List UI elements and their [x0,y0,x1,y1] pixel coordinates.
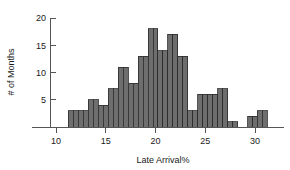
histogram-bar [257,111,262,127]
histogram-bar [248,116,253,127]
x-tick-label: 25 [200,136,210,146]
histogram-bar [213,94,218,127]
x-tick-label: 20 [150,136,160,146]
histogram-bar [158,51,163,127]
histogram-bar [153,29,158,127]
histogram-bar [113,89,118,127]
histogram-bar [198,94,203,127]
histogram-bar [88,100,93,127]
histogram-bar [203,94,208,127]
histogram-bar [73,111,78,127]
y-tick-label: 15 [36,41,46,51]
histogram-bar [228,122,233,127]
histogram-figure: 5101520 1015202530 Late Arrival% # of Mo… [0,0,290,170]
histogram-bar [178,56,183,127]
histogram-bar [183,56,188,127]
histogram-bar [233,122,238,127]
histogram-bar [138,56,143,127]
histogram-bar [68,111,73,127]
y-tick-label: 10 [36,68,46,78]
x-tick-label: 30 [250,136,260,146]
histogram-bar [148,29,153,127]
histogram-bar [128,83,133,127]
histogram-bar [173,34,178,127]
y-tick-label: 5 [41,95,46,105]
histogram-bar [262,111,267,127]
histogram-bar [98,105,103,127]
histogram-bar [253,116,258,127]
x-tick-label: 15 [101,136,111,146]
y-tick-group: 5101520 [36,13,56,105]
histogram-bar [188,111,193,127]
histogram-bar [193,111,198,127]
histogram-bar [118,67,123,127]
histogram-bar [163,51,168,127]
x-tick-group: 1015202530 [51,128,260,147]
histogram-bar [78,111,83,127]
x-axis-title: Late Arrival% [136,155,189,165]
histogram-bar [123,67,128,127]
histogram-bar [108,89,113,127]
histogram-bar [133,83,138,127]
y-axis-title: # of Months [6,48,16,96]
y-tick-label: 20 [36,13,46,23]
histogram-bar [83,111,88,127]
histogram-bar [223,89,228,127]
histogram-bar [103,105,108,127]
histogram-bar [168,34,173,127]
histogram-bar [218,89,223,127]
x-tick-label: 10 [51,136,61,146]
histogram-bar [143,56,148,127]
histogram-bar [93,100,98,127]
histogram-bar [208,94,213,127]
bars-group [68,29,267,127]
histogram-plot: 5101520 1015202530 Late Arrival% # of Mo… [0,0,290,170]
